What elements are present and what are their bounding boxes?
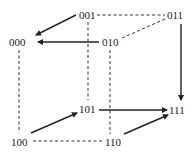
arrow-edges: [31, 15, 181, 134]
node-011: 011: [167, 10, 183, 21]
node-100: 100: [11, 137, 28, 148]
node-111: 111: [169, 105, 185, 116]
edge-011-010: [122, 19, 165, 38]
node-101: 101: [79, 104, 96, 115]
arrow-110-111: [124, 115, 168, 134]
arrow-100-101: [31, 113, 77, 133]
edges-layer: [0, 0, 195, 153]
arrow-001-000: [36, 15, 76, 35]
node-000: 000: [9, 37, 26, 48]
hypercube-diagram: 001 011 000 010 101 111 100 110: [0, 0, 195, 153]
dashed-edges: [19, 15, 165, 141]
node-001: 001: [79, 10, 96, 21]
node-110: 110: [105, 137, 121, 148]
node-010: 010: [102, 37, 119, 48]
